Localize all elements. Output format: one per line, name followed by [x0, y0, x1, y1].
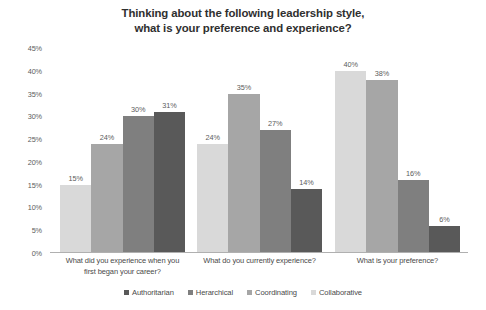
bar-value-label: 31% [149, 101, 189, 110]
legend-label: Coordinating [255, 288, 297, 297]
y-axis-tick-label: 15% [28, 180, 42, 189]
y-axis-tick-label: 35% [28, 89, 42, 98]
bar [335, 71, 366, 253]
legend-label: Collaborative [319, 288, 362, 297]
bar-value-label: 14% [286, 178, 326, 187]
bar-group: 15%24%30%31% [60, 48, 185, 253]
category-axis-labels: What did you experience when youfirst be… [50, 256, 468, 282]
bar-slot: 40% [335, 48, 366, 253]
bar [260, 130, 291, 253]
bar-slot: 35% [228, 48, 259, 253]
category-label-line: first began your career? [48, 267, 197, 278]
legend-swatch-icon [247, 290, 252, 295]
bar [228, 94, 259, 253]
bar-group: 24%35%27%14% [197, 48, 322, 253]
category-label: What is your preference? [323, 256, 472, 267]
y-axis-tick-label: 0% [32, 249, 42, 258]
bar-group: 40%38%16%6% [335, 48, 460, 253]
x-axis-line [50, 252, 468, 253]
y-axis-tick-label: 25% [28, 135, 42, 144]
chart-title-line-2: what is your preference and experience? [0, 21, 486, 36]
bar-value-label: 38% [362, 69, 402, 78]
legend-swatch-icon [124, 290, 129, 295]
chart-title: Thinking about the following leadership … [0, 6, 486, 36]
bar-slot: 24% [91, 48, 122, 253]
bar [91, 144, 122, 253]
legend-item[interactable]: Authoritarian [124, 288, 174, 297]
y-axis-tick-label: 20% [28, 157, 42, 166]
bar-value-label: 24% [193, 133, 233, 142]
y-axis-tick-label: 40% [28, 66, 42, 75]
category-label-line: What is your preference? [323, 256, 472, 267]
bar-value-label: 6% [424, 215, 464, 224]
bar-slot: 6% [429, 48, 460, 253]
bar [197, 144, 228, 253]
bar-groups: 15%24%30%31%24%35%27%14%40%38%16%6% [50, 48, 468, 253]
category-label-line: What do you currently experience? [185, 256, 334, 267]
bar [291, 189, 322, 253]
bar-value-label: 15% [56, 174, 96, 183]
bar [429, 226, 460, 253]
category-label-line: What did you experience when you [48, 256, 197, 267]
bar [123, 116, 154, 253]
bar-slot: 31% [154, 48, 185, 253]
bar-slot: 15% [60, 48, 91, 253]
bar-chart: Thinking about the following leadership … [0, 0, 486, 310]
chart-legend: AuthoritarianHerarchicalCoordinatingColl… [0, 288, 486, 297]
bar-slot: 38% [366, 48, 397, 253]
bar [60, 185, 91, 253]
legend-item[interactable]: Herarchical [188, 288, 233, 297]
y-axis: 45%40%35%30%25%20%15%10%5%0% [0, 48, 46, 253]
legend-label: Herarchical [196, 288, 233, 297]
bar [366, 80, 397, 253]
bar-slot: 30% [123, 48, 154, 253]
legend-swatch-icon [188, 290, 193, 295]
chart-title-line-1: Thinking about the following leadership … [0, 6, 486, 21]
y-axis-tick-label: 5% [32, 226, 42, 235]
bar-value-label: 40% [331, 60, 371, 69]
category-label: What did you experience when youfirst be… [48, 256, 197, 277]
legend-item[interactable]: Coordinating [247, 288, 297, 297]
y-axis-tick-label: 10% [28, 203, 42, 212]
bar-value-label: 16% [393, 169, 433, 178]
bar-value-label: 27% [255, 119, 295, 128]
bar-slot: 27% [260, 48, 291, 253]
bar-value-label: 35% [224, 83, 264, 92]
legend-swatch-icon [311, 290, 316, 295]
y-axis-tick-label: 30% [28, 112, 42, 121]
bar-slot: 24% [197, 48, 228, 253]
legend-item[interactable]: Collaborative [311, 288, 362, 297]
category-label: What do you currently experience? [185, 256, 334, 267]
bar [154, 112, 185, 253]
legend-label: Authoritarian [132, 288, 174, 297]
bar-slot: 14% [291, 48, 322, 253]
plot-area: 15%24%30%31%24%35%27%14%40%38%16%6% [50, 48, 468, 253]
y-axis-tick-label: 45% [28, 44, 42, 53]
bar-value-label: 24% [87, 133, 127, 142]
